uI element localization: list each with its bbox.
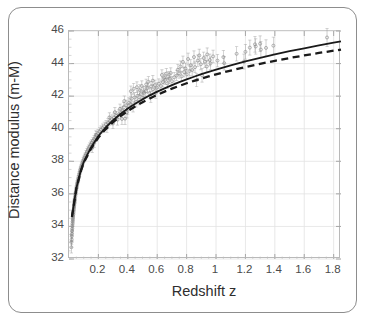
y-tick-label: 36 (38, 187, 64, 199)
y-tick-label: 46 (38, 24, 64, 36)
y-tick-label: 40 (38, 122, 64, 134)
plot-svg (69, 31, 341, 259)
decelerating-universe-model (72, 50, 341, 217)
y-axis-tick-labels: 3234363840424446 (36, 30, 64, 258)
y-axis-title-wrapper: Distance modulus (m-M) (6, 40, 26, 240)
y-tick-label: 44 (38, 57, 64, 69)
plot-area (68, 30, 340, 258)
data-point-markers (70, 36, 329, 249)
y-tick-label: 38 (38, 154, 64, 166)
y-tick-label: 34 (38, 219, 64, 231)
hubble-diagram-chart: 3234363840424446 Distance modulus (m-M) … (0, 0, 367, 322)
x-axis-tick-labels: 0.20.40.60.811.21.41.61.8 (68, 264, 340, 280)
y-axis-title: Distance modulus (m-M) (6, 40, 22, 240)
y-tick-label: 42 (38, 89, 64, 101)
error-bars (70, 29, 329, 253)
x-tick-label: 1.8 (316, 264, 350, 276)
x-axis-title: Redshift z (68, 283, 340, 299)
y-tick-label: 32 (38, 252, 64, 264)
